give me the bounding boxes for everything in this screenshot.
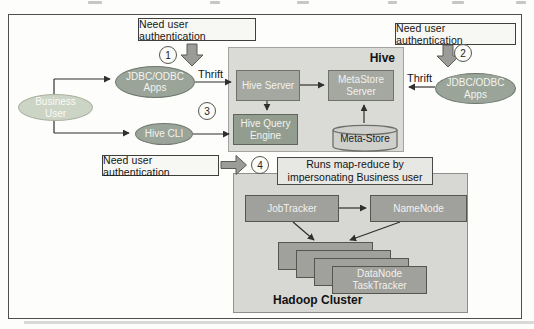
scan-artifact (210, 1, 220, 4)
runs-mapreduce-line1: Runs map-reduce by (306, 158, 403, 171)
business-user-ellipse: Business User (18, 94, 93, 121)
hive-cli-label: Hive CLI (145, 128, 183, 140)
metastore-server-label: MetaStore Server (334, 74, 388, 98)
jdbc-odbc-apps-left-ellipse: JDBC/ODBC Apps (115, 66, 195, 98)
jdbc-odbc-apps-left-label: JDBC/ODBC Apps (124, 71, 186, 94)
tasktracker-label: TaskTracker (352, 280, 406, 292)
auth-callout-bottom-label: Need user authentication (103, 154, 218, 178)
auth-callout-bottom: Need user authentication (102, 155, 219, 176)
auth-callout-top-right-label: Need user authentication (396, 22, 515, 46)
step-circle-2: 2 (454, 44, 472, 62)
auth-callout-top-left-label: Need user authentication (139, 18, 255, 42)
auth-callout-top-left: Need user authentication (138, 18, 256, 41)
namenode-node: NameNode (370, 195, 467, 222)
hadoop-cluster-title: Hadoop Cluster (273, 293, 362, 307)
runs-mapreduce-line2: impersonating Business user (288, 171, 423, 184)
namenode-label: NameNode (393, 203, 444, 215)
step-circle-1: 1 (159, 46, 177, 64)
step-2-number: 2 (460, 48, 466, 59)
scan-artifact (297, 1, 309, 4)
architecture-diagram: Hive Hadoop Cluster (0, 0, 534, 329)
hive-title: Hive (370, 51, 395, 65)
jobtracker-label: JobTracker (267, 203, 317, 215)
business-user-label: Business User (30, 96, 82, 119)
step-1-number: 1 (165, 50, 171, 61)
datanode-label: DataNode (357, 268, 402, 280)
hive-query-engine-label: Hive Query Engine (238, 118, 294, 142)
meta-store-cylinder: Meta-Store (331, 124, 399, 153)
step-4-number: 4 (257, 160, 263, 171)
scan-artifact (88, 1, 102, 4)
meta-store-label: Meta-Store (331, 133, 399, 144)
scan-artifact (516, 1, 526, 4)
step-3-number: 3 (204, 106, 210, 117)
runs-mapreduce-callout: Runs map-reduce by impersonating Busines… (277, 157, 433, 185)
metastore-server-node: MetaStore Server (328, 70, 394, 101)
step-circle-4: 4 (251, 156, 269, 174)
scan-artifact (452, 1, 464, 4)
scan-artifact (388, 1, 397, 4)
hive-server-node: Hive Server (236, 70, 300, 101)
thrift-label-right: Thrift (407, 72, 432, 84)
step-circle-3: 3 (198, 102, 216, 120)
scan-shadow (24, 321, 534, 324)
jobtracker-node: JobTracker (245, 195, 339, 222)
thrift-label-left: Thrift (198, 68, 223, 80)
auth-callout-top-right: Need user authentication (395, 23, 516, 45)
worker-node-front: DataNode TaskTracker (332, 266, 427, 294)
jdbc-odbc-apps-right-label: JDBC/ODBC Apps (445, 77, 507, 100)
hive-query-engine-node: Hive Query Engine (233, 114, 298, 145)
hive-server-label: Hive Server (242, 80, 294, 92)
jdbc-odbc-apps-right-ellipse: JDBC/ODBC Apps (435, 73, 516, 104)
hive-cli-ellipse: Hive CLI (135, 123, 193, 145)
